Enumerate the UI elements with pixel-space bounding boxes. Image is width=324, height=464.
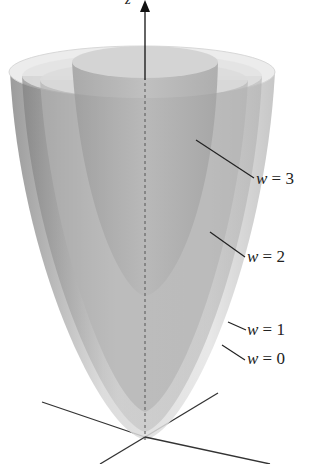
leader-w1 [228,322,246,330]
label-w2: w = 2 [247,247,285,267]
label-w1: w = 1 [247,320,285,340]
z-axis-label: z [125,0,131,8]
z-axis-arrow-icon [140,0,150,12]
x-axis-front [145,437,270,464]
label-w3: w = 3 [256,169,294,189]
nested-paraboloids-figure: z w = 3 w = 2 w = 1 w = 0 [0,0,324,464]
label-w0: w = 0 [247,349,285,369]
y-axis-front [100,437,145,464]
paraboloid-diagram [0,0,324,464]
leader-w0 [222,345,245,360]
